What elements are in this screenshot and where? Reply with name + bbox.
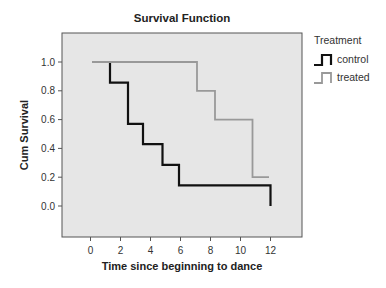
x-tick-label: 8	[208, 245, 214, 256]
y-tick-label: 0.0	[41, 201, 55, 212]
x-tick-label: 12	[265, 245, 277, 256]
x-tick-label: 2	[118, 245, 124, 256]
x-tick-label: 0	[88, 245, 94, 256]
x-axis: 024681012	[88, 237, 277, 256]
y-axis-label: Cum Survival	[18, 100, 30, 170]
plot-area	[62, 33, 302, 237]
legend-title: Treatment	[314, 34, 362, 46]
y-tick-label: 0.8	[41, 85, 55, 96]
x-tick-label: 6	[178, 245, 184, 256]
legend-treated-label: treated	[337, 71, 370, 83]
x-tick-label: 10	[235, 245, 247, 256]
legend-treated-icon	[314, 73, 331, 83]
survival-chart: Survival Function 0.00.20.40.60.81.0 024…	[0, 0, 386, 288]
y-tick-label: 0.2	[41, 172, 55, 183]
x-axis-label: Time since beginning to dance	[102, 260, 263, 272]
y-tick-label: 0.6	[41, 114, 55, 125]
y-tick-label: 1.0	[41, 57, 55, 68]
legend-control-icon	[314, 55, 331, 65]
y-axis: 0.00.20.40.60.81.0	[41, 57, 62, 212]
chart-title: Survival Function	[134, 12, 231, 24]
legend: Treatment control treated	[314, 34, 370, 83]
y-tick-label: 0.4	[41, 143, 55, 154]
x-tick-label: 4	[148, 245, 154, 256]
legend-control-label: control	[337, 53, 369, 65]
